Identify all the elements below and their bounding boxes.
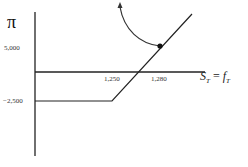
y-axis-label: π [7, 12, 16, 32]
arrow-head-icon [118, 2, 123, 8]
x-tick-1280: 1,280 [151, 75, 167, 83]
x-axis-label: ST = fT [200, 69, 231, 85]
x-tick-1250: 1,250 [104, 75, 120, 83]
curved-arrow [120, 7, 160, 46]
x-label-f-sub: T [226, 77, 231, 85]
x-label-eq: = [210, 69, 223, 83]
tangent-point [157, 43, 162, 48]
payoff-diagram: π 5,000 −2,500 1,250 1,280 ST = fT [0, 0, 248, 167]
y-tick-neg2500: −2,500 [3, 97, 23, 105]
payoff-line [35, 14, 192, 101]
y-tick-5000: 5,000 [4, 44, 20, 52]
